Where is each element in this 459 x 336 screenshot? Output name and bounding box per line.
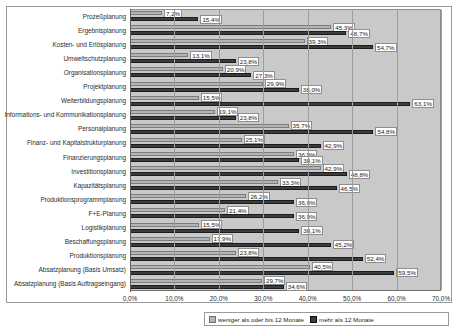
bar-series1 [130, 265, 310, 269]
bar-group: 36,9%38,1% [130, 151, 440, 165]
category-label: Finanz- und Kapitalstrukturplanung [27, 139, 126, 146]
bar-group: 17,9%45,2% [130, 236, 440, 250]
bar-group: 7,2%15,4% [130, 10, 440, 24]
bar-series2 [130, 257, 363, 261]
bar-series2 [130, 243, 331, 247]
category-label: Kapazitätsplanung [73, 182, 126, 189]
category-label: Weiterbildungsplanung [61, 97, 126, 104]
category-label: Projektplanung [83, 83, 126, 90]
bar-group: 15,5%63,1% [130, 95, 440, 109]
bar-group: 29,7%34,6% [130, 278, 440, 292]
bar-series2 [130, 45, 373, 49]
category-label: Organisationsplanung [64, 69, 126, 76]
data-label: 45,2% [333, 240, 355, 249]
x-tick-label: 0,0% [123, 295, 138, 303]
category-label: Informations- und Kommunikationsplanung [5, 111, 127, 118]
bar-group: 19,1%23,8% [130, 109, 440, 123]
bar-series1 [130, 223, 199, 227]
bar-series1 [130, 25, 331, 29]
value-axis-tick-labels: 0,0%10,0%20,0%30,0%40,0%50,0%60,0%70,0% [0, 295, 459, 307]
x-tick-label: 70,0% [432, 295, 450, 303]
category-label: Kosten- und Erlösplanung [52, 41, 126, 48]
category-label: Umweltschutzplanung [63, 55, 126, 62]
bar-group: 29,9%38,0% [130, 81, 440, 95]
bar-series1 [130, 82, 263, 86]
bar-group: 25,1%42,9% [130, 137, 440, 151]
data-label: 63,1% [412, 99, 434, 108]
category-label: Beschaffungsplanung [65, 238, 126, 245]
category-label: Produktionsplanung [70, 252, 127, 259]
bar-series2 [130, 144, 321, 148]
bar-series1 [130, 166, 321, 170]
bar-group: 35,7%54,8% [130, 123, 440, 137]
bar-series2 [130, 158, 299, 162]
x-tick-label: 10,0% [165, 295, 183, 303]
data-label: 42,9% [323, 141, 345, 150]
bar-series1 [130, 138, 242, 142]
legend-label-series2: mehr als 12 Monate [319, 316, 374, 323]
category-axis-labels: ProzeßplanungErgebnisplanungKosten- und … [6, 9, 128, 291]
bar-series2 [130, 229, 299, 233]
bar-group: 45,3%48,7% [130, 24, 440, 38]
category-label: Absatzplanung (Basis Auftragseingang) [14, 280, 126, 287]
bar-rows: 7,2%15,4%45,3%48,7%39,3%54,7%13,1%23,8%2… [130, 10, 440, 290]
data-label: 59,5% [396, 268, 418, 277]
gridline [352, 10, 353, 290]
bar-series2 [130, 31, 346, 35]
category-label: Prozeßplanung [83, 13, 126, 20]
bar-series2 [130, 271, 394, 275]
bar-series1 [130, 180, 278, 184]
bar-series1 [130, 39, 305, 43]
bar-series2 [130, 200, 294, 204]
bar-group: 39,3%54,7% [130, 38, 440, 52]
data-label: 38,0% [301, 85, 323, 94]
category-label: Personalplanung [78, 125, 126, 132]
category-label: Absatzplanung (Basis Umsatz) [39, 266, 126, 273]
chart-screenshot: 7,2%15,4%45,3%48,7%39,3%54,7%13,1%23,8%2… [0, 0, 459, 336]
bar-series2 [130, 285, 284, 289]
category-label: Produktionsprogrammplanung [40, 196, 126, 203]
gridline [397, 10, 398, 290]
bar-series1 [130, 11, 162, 15]
data-label: 38,1% [301, 156, 323, 165]
category-label: Ergebnisplanung [78, 27, 126, 34]
gridline [263, 10, 264, 290]
category-label: Finanzierungsplanung [63, 154, 126, 161]
bar-series2 [130, 130, 373, 134]
bar-series2 [130, 17, 198, 21]
legend-swatch-icon-series2 [310, 316, 317, 323]
x-tick-label: 60,0% [388, 295, 406, 303]
x-tick-label: 50,0% [343, 295, 361, 303]
data-label: 38,1% [301, 226, 323, 235]
legend-swatch-icon-series1 [209, 316, 216, 323]
bar-series1 [130, 237, 210, 241]
data-label: 54,8% [375, 127, 397, 136]
bar-series2 [130, 88, 299, 92]
data-label: 34,6% [286, 282, 308, 291]
bar-series1 [130, 279, 262, 283]
x-tick-label: 40,0% [299, 295, 317, 303]
bar-series1 [130, 152, 294, 156]
bar-series1 [130, 67, 223, 71]
gridline [174, 10, 175, 290]
gridline [441, 10, 442, 290]
data-label: 36,9% [296, 212, 318, 221]
category-label: Investitionsplanung [71, 168, 126, 175]
legend-item-0: weniger als oder bis 12 Monate [209, 316, 304, 323]
bar-group: 13,1%23,8% [130, 52, 440, 66]
plot-area: 7,2%15,4%45,3%48,7%39,3%54,7%13,1%23,8%2… [130, 9, 441, 291]
bar-group: 33,3%46,5% [130, 179, 440, 193]
bar-series1 [130, 208, 225, 212]
bar-group: 21,4%36,9% [130, 207, 440, 221]
bar-series1 [130, 110, 215, 114]
bar-series2 [130, 73, 251, 77]
bar-group: 26,2%36,9% [130, 193, 440, 207]
bar-series2 [130, 102, 410, 106]
data-label: 46,5% [339, 184, 361, 193]
x-tick-label: 20,0% [210, 295, 228, 303]
bar-series2 [130, 186, 337, 190]
value-axis-line [130, 9, 131, 292]
bar-series2 [130, 116, 236, 120]
legend-item-1: mehr als 12 Monate [310, 316, 374, 323]
bar-group: 23,8%52,4% [130, 250, 440, 264]
